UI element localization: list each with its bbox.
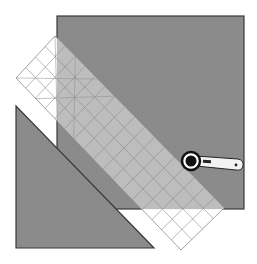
quilting-illustration xyxy=(0,0,257,264)
diagram-canvas xyxy=(0,0,257,264)
cutter-slider xyxy=(203,160,211,164)
cutter-blade-icon xyxy=(186,156,197,167)
cutter-handle-hole xyxy=(235,164,238,167)
